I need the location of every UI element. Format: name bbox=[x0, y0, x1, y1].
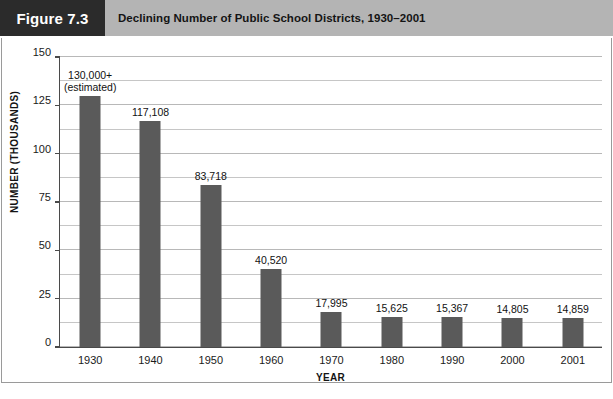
figure-title-container: Declining Number of Public School Distri… bbox=[105, 0, 613, 36]
figure-title: Declining Number of Public School Distri… bbox=[118, 12, 426, 24]
y-axis-tick-label: 25 bbox=[39, 288, 51, 300]
bar[interactable] bbox=[381, 317, 402, 347]
bar[interactable] bbox=[321, 312, 342, 347]
x-axis-tick-label: 2000 bbox=[500, 354, 524, 366]
bar-value-line1: 17,995 bbox=[315, 297, 347, 309]
bar-group[interactable]: 83,7181950 bbox=[181, 58, 241, 347]
y-axis-tick-label: 150 bbox=[33, 46, 51, 58]
bar[interactable] bbox=[502, 318, 523, 347]
figure-root: Figure 7.3 Declining Number of Public Sc… bbox=[0, 0, 613, 399]
bar-value-line1: 15,367 bbox=[436, 302, 468, 314]
x-axis-tick-label: 2001 bbox=[561, 354, 585, 366]
bar[interactable] bbox=[80, 96, 101, 347]
bar-group[interactable]: 14,8052000 bbox=[482, 58, 542, 347]
figure-number-label: Figure 7.3 bbox=[17, 10, 89, 27]
bar-value-line1: 130,000+ bbox=[68, 69, 112, 81]
bar-value-line1: 14,859 bbox=[557, 303, 589, 315]
footer-sliver bbox=[0, 389, 613, 399]
bar[interactable] bbox=[562, 318, 583, 347]
bar-value-label: 14,805 bbox=[496, 303, 528, 315]
bar-value-line2: (estimated) bbox=[64, 81, 117, 93]
bar[interactable] bbox=[442, 317, 463, 347]
bar-value-label: 15,367 bbox=[436, 302, 468, 314]
x-axis-tick-label: 1990 bbox=[440, 354, 464, 366]
gridline-major bbox=[60, 56, 602, 57]
x-axis-tick-label: 1970 bbox=[319, 354, 343, 366]
y-axis-title: NUMBER (THOUSANDS) bbox=[9, 91, 20, 213]
bar-group[interactable]: 40,5201960 bbox=[241, 58, 301, 347]
y-axis-tick-label: 100 bbox=[33, 143, 51, 155]
bar-value-line1: 83,718 bbox=[195, 170, 227, 182]
bar-value-label: 117,108 bbox=[132, 106, 169, 118]
bar-group[interactable]: 15,6251980 bbox=[362, 58, 422, 347]
plot-area: 0255075100125150 130,000+(estimated)1930… bbox=[59, 58, 602, 348]
y-axis-tick-label: 0 bbox=[45, 336, 51, 348]
bar-value-label: 40,520 bbox=[255, 254, 287, 266]
x-axis-tick-label: 1960 bbox=[259, 354, 283, 366]
bar-value-line1: 14,805 bbox=[496, 303, 528, 315]
bar-value-label: 17,995 bbox=[315, 297, 347, 309]
bar-group[interactable]: 14,8592001 bbox=[543, 58, 603, 347]
bar-value-line1: 15,625 bbox=[376, 302, 408, 314]
x-axis-tick-label: 1930 bbox=[78, 354, 102, 366]
y-axis-tick-label: 125 bbox=[33, 94, 51, 106]
bar[interactable] bbox=[261, 269, 282, 347]
bar-value-line1: 117,108 bbox=[132, 106, 169, 118]
x-axis-tick-label: 1980 bbox=[380, 354, 404, 366]
bar-value-label: 130,000+(estimated) bbox=[64, 69, 117, 93]
figure-number-box: Figure 7.3 bbox=[0, 0, 105, 36]
figure-header-band: Figure 7.3 Declining Number of Public Sc… bbox=[0, 0, 613, 36]
bar-value-line1: 40,520 bbox=[255, 254, 287, 266]
x-axis-title: YEAR bbox=[59, 372, 602, 383]
chart-frame: NUMBER (THOUSANDS) 0255075100125150 130,… bbox=[1, 38, 612, 383]
bar-value-label: 15,625 bbox=[376, 302, 408, 314]
bar-group[interactable]: 15,3671990 bbox=[422, 58, 482, 347]
bar[interactable] bbox=[200, 185, 221, 347]
bar-group[interactable]: 117,1081940 bbox=[120, 58, 180, 347]
bar-value-label: 83,718 bbox=[195, 170, 227, 182]
bar-value-label: 14,859 bbox=[557, 303, 589, 315]
bar-group[interactable]: 17,9951970 bbox=[301, 58, 361, 347]
bar[interactable] bbox=[140, 121, 161, 347]
y-axis-tick-label: 50 bbox=[39, 239, 51, 251]
x-axis-tick-label: 1950 bbox=[199, 354, 223, 366]
bar-group[interactable]: 130,000+(estimated)1930 bbox=[60, 58, 120, 347]
x-axis-tick-label: 1940 bbox=[138, 354, 162, 366]
bars-layer: 130,000+(estimated)1930117,108194083,718… bbox=[60, 58, 602, 347]
y-axis-tick-label: 75 bbox=[39, 191, 51, 203]
